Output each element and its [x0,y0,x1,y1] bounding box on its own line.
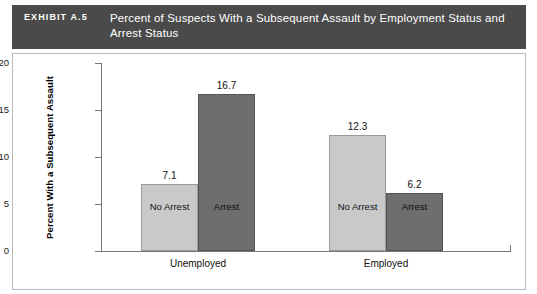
bar-employed-no-arrest: 12.3No Arrest [329,135,386,251]
exhibit-number: EXHIBIT A.5 [24,11,110,22]
bar-series-label: No Arrest [142,201,197,212]
bar-series-label: Arrest [199,201,254,212]
x-axis-category-label: Employed [329,258,443,269]
y-axis-tick-label: 15 [0,104,9,115]
bar-value-label: 6.2 [373,179,456,190]
exhibit-header: EXHIBIT A.5 Percent of Suspects With a S… [12,5,526,49]
y-axis-tick-label: 0 [4,245,9,256]
exhibit-title: Percent of Suspects With a Subsequent As… [110,11,516,41]
bar-employed-arrest: 6.2Arrest [386,193,443,251]
bar-value-label: 12.3 [316,121,399,132]
bar-unemployed-arrest: 16.7Arrest [198,94,255,251]
chart-bars: 7.1No Arrest16.7Arrest12.3No Arrest6.2Ar… [13,54,525,289]
bar-series-label: No Arrest [330,201,385,212]
bar-value-label: 16.7 [185,80,268,91]
chart-plot-frame: Percent With a Subsequent Assault 051015… [12,53,526,290]
x-axis-category-label: Unemployed [141,258,255,269]
bar-unemployed-no-arrest: 7.1No Arrest [141,184,198,251]
y-axis-tick-label: 5 [4,198,9,209]
bar-series-label: Arrest [387,201,442,212]
y-axis-tick-label: 20 [0,57,9,68]
exhibit-figure: EXHIBIT A.5 Percent of Suspects With a S… [0,0,537,294]
y-axis-tick-label: 10 [0,151,9,162]
